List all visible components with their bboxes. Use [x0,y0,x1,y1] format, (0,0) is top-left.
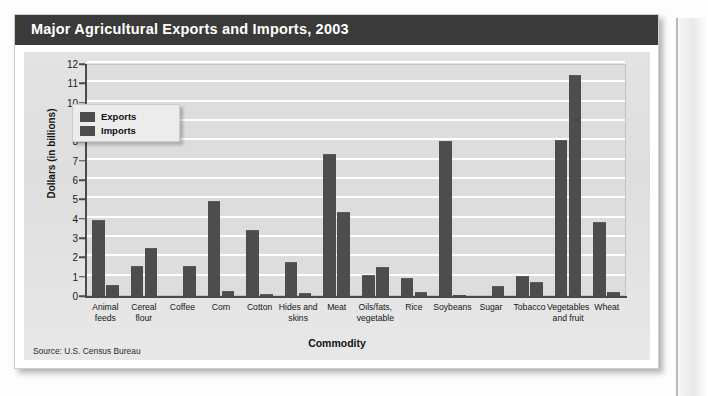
y-tick-label: 1 [72,271,78,282]
legend-label-imports: Imports [101,125,136,136]
bar-group [240,64,279,296]
bar-group [86,64,125,296]
page-title: Major Agricultural Exports and Imports, … [31,21,349,37]
bar [299,293,312,296]
legend-label-exports: Exports [101,111,136,122]
bar-group [510,64,549,296]
legend-swatch-imports [80,126,95,136]
y-tick-label: 2 [72,252,78,263]
chart-legend: Exports Imports [72,104,180,142]
bar [183,266,196,296]
bar [285,262,298,296]
y-tick-mark [79,83,85,85]
bar [260,294,273,296]
bar [593,222,606,296]
bar [415,292,428,296]
y-tick-mark [79,237,85,239]
y-tick-label: 0 [72,291,78,302]
bar [607,292,620,296]
bar-group [549,64,588,296]
bar [131,266,144,296]
bar [246,230,259,296]
y-axis-ticks: 0123456789101112 [24,52,86,310]
gridline [87,61,625,63]
bar-group [433,64,472,296]
bar [362,275,375,296]
bar [453,295,466,296]
bar [145,248,158,296]
chart-card: Dollars (in billions) 0123456789101112 A… [24,52,650,360]
bar [555,140,568,296]
bar [208,201,221,296]
figure-panel: Major Agricultural Exports and Imports, … [14,14,659,369]
bar-group [163,64,202,296]
bar [222,291,235,296]
y-tick-mark [79,160,85,162]
y-tick-label: 5 [72,194,78,205]
bar-group [317,64,356,296]
y-tick-label: 6 [72,175,78,186]
bar-group [395,64,434,296]
y-tick-mark [79,218,85,220]
y-tick-mark [79,179,85,181]
bar-series-container [86,64,626,296]
y-tick-mark [79,63,85,65]
bar [569,75,582,296]
bar-group [279,64,318,296]
y-tick-mark [79,276,85,278]
x-axis-tick-labels: AnimalfeedsCerealflourCoffeeCornCottonHi… [86,302,626,336]
page-root: Major Agricultural Exports and Imports, … [0,0,708,396]
y-tick-label: 3 [72,233,78,244]
bar [323,154,336,296]
y-tick-label: 12 [67,59,78,70]
page-gutter-edge [676,18,678,396]
bar [376,267,389,296]
y-tick-label: 11 [68,78,78,89]
figure-title-bar: Major Agricultural Exports and Imports, … [15,15,658,45]
y-tick-mark [79,199,85,201]
bar [439,141,452,296]
bar [516,276,529,296]
legend-swatch-exports [80,112,95,122]
bar-group [356,64,395,296]
bar-group [472,64,511,296]
y-tick-label: 4 [72,213,78,224]
x-tick-label: Wheat [566,302,647,313]
bar-group [202,64,241,296]
bar [337,212,350,296]
bar [106,285,119,296]
bar-group [125,64,164,296]
y-tick-label: 7 [72,155,78,166]
y-tick-mark [79,295,85,297]
x-axis-line [85,296,627,298]
bar [92,220,105,296]
source-note: Source: U.S. Census Bureau [33,346,141,356]
bar-group [587,64,626,296]
y-tick-mark [79,257,85,259]
bar [492,286,505,296]
bar [401,278,414,296]
bar [530,282,543,296]
